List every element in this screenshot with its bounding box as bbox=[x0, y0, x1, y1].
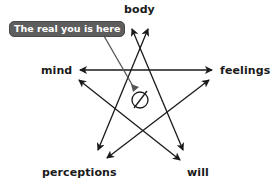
node-label-perceptions: perceptions bbox=[42, 166, 117, 179]
callout-pointer-tip-icon bbox=[131, 84, 139, 92]
node-label-will: will bbox=[187, 166, 209, 179]
connector-mind-will bbox=[79, 80, 180, 160]
callout-label: The real you is here bbox=[9, 21, 125, 37]
node-label-feelings: feelings bbox=[220, 64, 270, 77]
center-circle-slash-icon bbox=[132, 91, 148, 108]
node-label-mind: mind bbox=[41, 64, 72, 77]
node-label-body: body bbox=[124, 3, 155, 16]
callout-pointer bbox=[104, 36, 134, 88]
connector-body-will bbox=[132, 29, 183, 150]
